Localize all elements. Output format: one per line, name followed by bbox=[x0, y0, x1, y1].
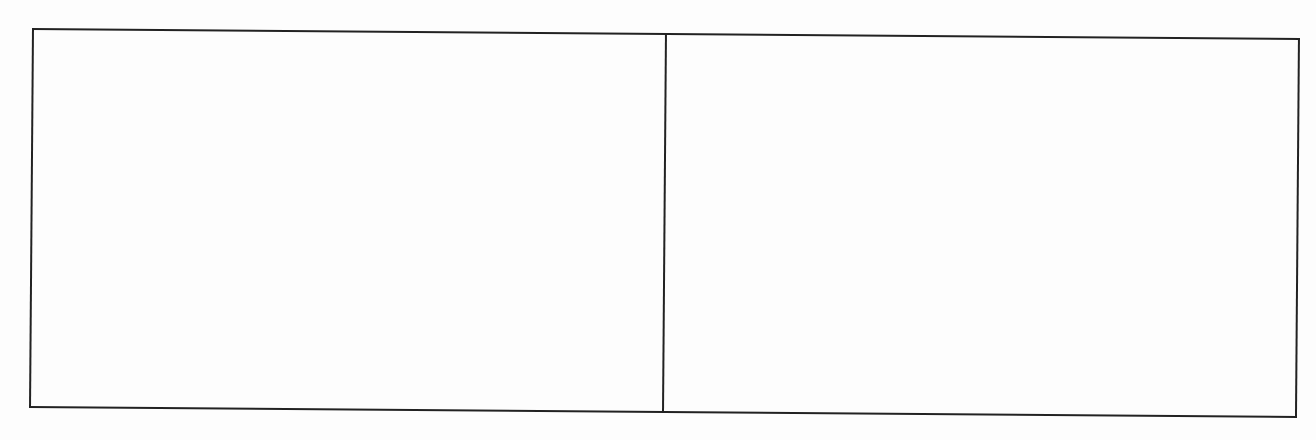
left-cell bbox=[30, 29, 666, 412]
scanned-page bbox=[0, 0, 1316, 440]
right-cell bbox=[663, 34, 1299, 417]
form-box-container bbox=[29, 28, 1300, 418]
form-box-row bbox=[30, 29, 1299, 417]
two-cell-form-box bbox=[29, 28, 1300, 418]
